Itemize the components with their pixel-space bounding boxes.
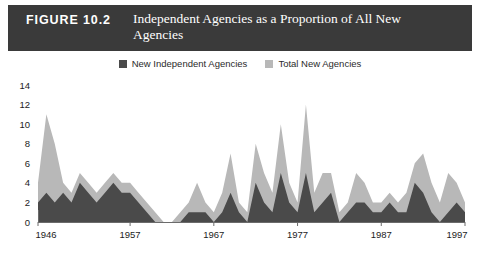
y-tick-label: 6 [25, 158, 30, 169]
legend-swatch-total-new-agencies [265, 60, 273, 68]
figure-root: FIGURE 10.2 Independent Agencies as a Pr… [0, 0, 480, 253]
x-tick-label: 1946 [35, 229, 56, 240]
x-axis: 194619571967197719871997 [35, 222, 467, 240]
legend-label-total-new-agencies: Total New Agencies [278, 58, 361, 69]
legend-item-new-independent-agencies: New Independent Agencies [119, 58, 248, 69]
y-tick-label: 14 [19, 80, 30, 91]
chart-legend: New Independent Agencies Total New Agenc… [0, 58, 480, 69]
x-tick-label: 1997 [446, 229, 467, 240]
x-tick-label: 1967 [203, 229, 224, 240]
x-tick-label: 1957 [120, 229, 141, 240]
x-tick-label: 1977 [287, 229, 308, 240]
area-chart-svg: 02468101214 194619571967197719871997 [0, 74, 480, 253]
chart-plot-area: 02468101214 194619571967197719871997 [0, 74, 480, 253]
y-tick-label: 2 [25, 197, 30, 208]
y-tick-label: 4 [25, 177, 30, 188]
chart-series-group [38, 105, 465, 222]
y-tick-label: 12 [19, 99, 30, 110]
figure-number-label: FIGURE 10.2 [26, 11, 111, 27]
y-axis: 02468101214 [19, 80, 30, 228]
y-tick-label: 0 [25, 217, 30, 228]
figure-title: Independent Agencies as a Proportion of … [133, 11, 433, 42]
x-tick-label: 1987 [371, 229, 392, 240]
legend-item-total-new-agencies: Total New Agencies [265, 58, 361, 69]
legend-swatch-new-independent-agencies [119, 60, 127, 68]
legend-label-new-independent-agencies: New Independent Agencies [132, 58, 248, 69]
y-tick-label: 8 [25, 138, 30, 149]
y-tick-label: 10 [19, 119, 30, 130]
figure-header-bar: FIGURE 10.2 Independent Agencies as a Pr… [8, 5, 472, 51]
